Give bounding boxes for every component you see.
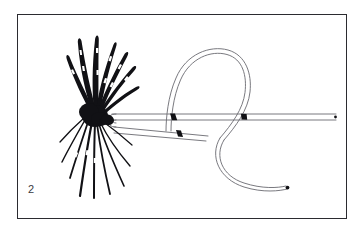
hackle-fibers-upper [66,36,139,118]
standing-end-tip [334,116,337,119]
tag-strand-lower [114,127,208,141]
leader-line-group [108,49,336,191]
standing-line-upper-strand [112,114,336,120]
knot-diagram-artwork [0,0,362,234]
loop-curve [166,49,250,140]
figure-container: 2 [0,0,362,234]
crossing-marks [170,114,337,190]
lower-fiber-highlights [74,150,119,164]
fly-hackle-group [60,36,140,199]
figure-number-label: 2 [28,183,34,195]
tag-end-tip [286,186,290,190]
tag-end-curve [216,138,287,191]
right-crossing-mark [241,114,247,120]
